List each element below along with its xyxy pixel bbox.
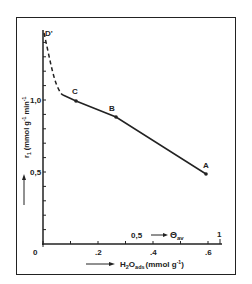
theta-label: Θav	[170, 230, 184, 241]
x-tick-label-02: .2	[95, 248, 102, 257]
theta-arrow-head	[163, 233, 168, 237]
point-label-d: D'	[45, 29, 53, 38]
chart: 1,0 0,5 0 .2 .4 .6 0,5 Θav 1 D' C B A r1…	[0, 0, 252, 284]
svg-text:r1 (mmol g-1 min-1: r1 (mmol g-1 min-1	[21, 97, 32, 158]
x-tick-label-04: .4	[150, 248, 157, 257]
point-label-a: A	[203, 161, 209, 170]
y-axis-label: r1 (mmol g-1 min-1	[21, 97, 32, 158]
point-label-b: B	[109, 104, 115, 113]
x-axis-label: H2Oads(mmol g-1)	[120, 259, 184, 270]
x-tick-label-06: .6	[205, 248, 212, 257]
point-c	[74, 99, 78, 103]
y-tick-label-1: 1,0	[30, 96, 42, 105]
theta-label-05: 0,5	[131, 231, 143, 240]
x-ticks	[43, 239, 220, 247]
x-label-arrow-head	[109, 262, 115, 266]
theta-label-1: 1	[217, 230, 222, 239]
point-b	[114, 115, 118, 119]
y-label-arrow-head	[22, 174, 26, 180]
solid-line	[63, 95, 206, 174]
y-tick-label-05: 0,5	[30, 168, 42, 177]
point-label-c: C	[72, 87, 78, 96]
dashed-curve	[44, 33, 63, 95]
x-tick-label-0: 0	[33, 248, 38, 257]
point-a	[204, 172, 208, 176]
